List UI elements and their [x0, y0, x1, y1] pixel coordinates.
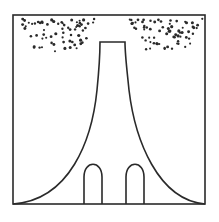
diagram-figure: [0, 0, 219, 222]
diagram-canvas: [0, 0, 219, 222]
background: [0, 0, 219, 222]
